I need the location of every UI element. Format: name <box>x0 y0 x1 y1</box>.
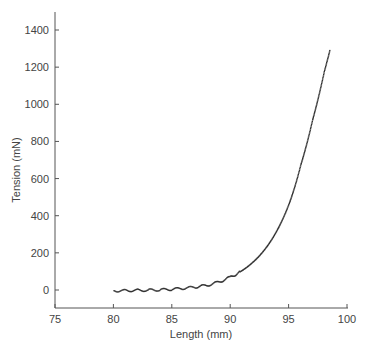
data-point <box>308 136 309 137</box>
data-point <box>329 51 330 52</box>
y-axis-label: Tension (mN) <box>10 137 22 202</box>
y-tick-label: 1000 <box>25 98 49 110</box>
data-point <box>292 192 293 193</box>
data-point <box>307 139 308 140</box>
y-tick-label: 200 <box>31 247 49 259</box>
y-tick-label: 1200 <box>25 61 49 73</box>
x-ticks: 7580859095100 <box>49 304 356 325</box>
data-point <box>316 106 317 107</box>
y-tick-label: 1400 <box>25 24 49 36</box>
data-point <box>314 113 315 114</box>
data-point <box>325 66 326 67</box>
data-point <box>313 117 314 118</box>
data-point <box>327 59 328 60</box>
data-point <box>311 122 312 123</box>
data-point <box>320 87 321 88</box>
data-point <box>319 92 320 93</box>
data-point <box>313 114 314 115</box>
data-point <box>288 204 289 205</box>
data-point <box>319 90 320 91</box>
data-point <box>327 58 328 59</box>
data-point <box>328 55 329 56</box>
data-point <box>308 138 309 139</box>
data-point <box>326 62 327 63</box>
x-tick-label: 80 <box>107 313 119 325</box>
data-point <box>298 174 299 175</box>
data-point <box>302 158 303 159</box>
data-point <box>304 150 305 151</box>
data-point <box>321 84 322 85</box>
data-point <box>318 94 319 95</box>
x-tick-label: 95 <box>282 313 294 325</box>
data-point <box>307 142 308 143</box>
data-point <box>295 184 296 185</box>
data-point <box>322 77 323 78</box>
data-point <box>311 125 312 126</box>
data-point <box>322 80 323 81</box>
data-point <box>323 72 324 73</box>
data-point <box>299 170 300 171</box>
data-point <box>326 63 327 64</box>
data-point <box>287 208 288 209</box>
data-point <box>310 127 311 128</box>
data-point <box>319 91 320 92</box>
data-point <box>318 98 319 99</box>
data-point <box>309 131 310 132</box>
data-point <box>301 163 302 164</box>
data-point <box>294 186 295 187</box>
y-ticks: 0200400600800100012001400 <box>25 24 59 296</box>
data-point <box>314 112 315 113</box>
data-point <box>303 153 304 154</box>
data-point <box>300 165 301 166</box>
data-point <box>323 74 324 75</box>
data-point <box>309 132 310 133</box>
data-point <box>315 107 316 108</box>
data-point <box>321 83 322 84</box>
data-point <box>306 143 307 144</box>
data-point <box>310 130 311 131</box>
data-point <box>304 152 305 153</box>
data-point <box>324 71 325 72</box>
data-point <box>287 206 288 207</box>
data-point <box>292 194 293 195</box>
data-point <box>305 148 306 149</box>
data-point <box>301 160 302 161</box>
data-point <box>302 157 303 158</box>
data-point <box>324 68 325 69</box>
data-point <box>317 102 318 103</box>
data-point <box>305 146 306 147</box>
data-point <box>326 61 327 62</box>
data-point <box>293 191 294 192</box>
data-point <box>327 57 328 58</box>
x-tick-label: 75 <box>49 313 61 325</box>
data-point <box>291 197 292 198</box>
data-point <box>288 205 289 206</box>
data-point <box>296 179 297 180</box>
data-point <box>314 111 315 112</box>
data-point <box>309 134 310 135</box>
data-point <box>315 109 316 110</box>
x-tick-label: 100 <box>338 313 356 325</box>
data-point <box>294 187 295 188</box>
data-point <box>321 81 322 82</box>
data-point <box>311 124 312 125</box>
data-point <box>294 188 295 189</box>
data-point <box>325 67 326 68</box>
y-tick-label: 800 <box>31 135 49 147</box>
data-point <box>299 168 300 169</box>
data-point <box>297 177 298 178</box>
data-point <box>297 175 298 176</box>
data-point <box>323 75 324 76</box>
data-point <box>325 65 326 66</box>
data-point <box>300 167 301 168</box>
data-series <box>113 50 330 293</box>
y-tick-label: 400 <box>31 210 49 222</box>
x-tick-label: 90 <box>224 313 236 325</box>
data-point <box>329 50 330 51</box>
axes <box>55 12 348 308</box>
data-point <box>303 154 304 155</box>
data-point <box>304 151 305 152</box>
data-point <box>320 88 321 89</box>
data-point <box>320 86 321 87</box>
data-point <box>303 156 304 157</box>
